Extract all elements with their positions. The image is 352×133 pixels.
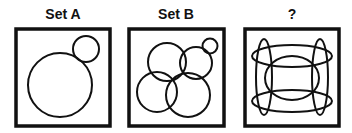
large-circle	[28, 53, 92, 117]
puzzle-figure	[0, 0, 352, 133]
small-circle	[203, 39, 218, 54]
circle	[166, 73, 210, 117]
panel-question	[245, 29, 339, 126]
small-circle	[73, 36, 99, 62]
center-ellipse	[265, 56, 319, 100]
panel-frame	[16, 29, 110, 126]
panel-set-a	[16, 29, 110, 126]
panel-set-b	[129, 29, 224, 126]
